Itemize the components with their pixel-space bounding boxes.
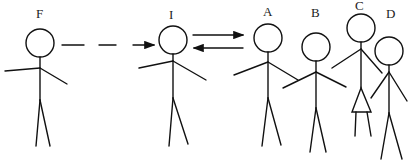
head-icon <box>159 26 187 54</box>
figure-a: A <box>234 4 298 146</box>
skirt-icon <box>352 88 371 112</box>
label-f: F <box>36 6 43 21</box>
label-c: C <box>355 0 364 13</box>
head-icon <box>347 14 375 42</box>
label-d: D <box>386 6 395 21</box>
head-icon <box>254 24 282 52</box>
label-a: A <box>263 4 273 19</box>
figure-d: D <box>371 6 407 159</box>
head-icon <box>26 29 54 57</box>
figure-f: F <box>5 6 67 146</box>
stick-figure-diagram: F I A B <box>0 0 412 161</box>
label-i: I <box>169 7 173 22</box>
figure-c: C <box>332 0 382 136</box>
figure-b: B <box>283 5 346 152</box>
figure-i: I <box>139 7 206 146</box>
label-b: B <box>311 5 320 20</box>
head-icon <box>375 37 403 65</box>
head-icon <box>302 33 330 61</box>
